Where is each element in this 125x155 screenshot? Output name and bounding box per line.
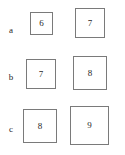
square-value: 8 — [38, 122, 43, 131]
square-value: 7 — [39, 70, 44, 79]
square-value: 9 — [87, 121, 92, 130]
square-value: 7 — [88, 19, 93, 28]
square-value: 6 — [39, 19, 44, 28]
square-a-1: 6 — [30, 12, 53, 35]
square-a-2: 7 — [75, 8, 105, 38]
square-b-1: 7 — [26, 59, 56, 89]
row-label-a: a — [5, 26, 17, 35]
square-c-1: 8 — [23, 109, 57, 143]
row-label-b: b — [5, 73, 17, 82]
square-pairs-figure: a67b78c89 — [0, 0, 125, 155]
row-label-c: c — [5, 125, 17, 134]
square-c-2: 9 — [70, 106, 109, 145]
square-b-2: 8 — [73, 56, 107, 90]
square-value: 8 — [88, 69, 93, 78]
